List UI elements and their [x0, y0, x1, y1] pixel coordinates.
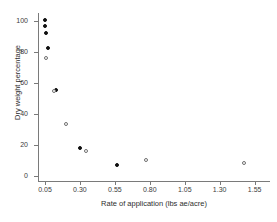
y-tick-mark	[34, 176, 38, 177]
data-point-open	[144, 158, 148, 162]
x-tick-label: 0.55	[98, 186, 132, 193]
x-tick-mark	[255, 181, 256, 185]
x-axis-title: Rate of application (lbs ae/acre)	[38, 199, 270, 208]
y-tick-mark	[34, 145, 38, 146]
data-point-open	[64, 122, 68, 126]
data-point-open	[84, 149, 88, 153]
x-tick-mark	[185, 181, 186, 185]
x-tick-mark	[115, 181, 116, 185]
x-tick-mark	[80, 181, 81, 185]
scatter-chart-figure: 020406080100 0.050.300.550.801.051.301.5…	[0, 0, 277, 222]
data-point-filled	[78, 146, 82, 150]
x-tick-mark	[45, 181, 46, 185]
x-tick-label: 1.55	[238, 186, 272, 193]
y-axis-title: Dry weight percentage	[13, 18, 22, 148]
x-tick-mark	[150, 181, 151, 185]
x-tick-label: 1.05	[168, 186, 202, 193]
data-point-open	[242, 161, 246, 165]
y-tick-label: 0	[2, 172, 28, 179]
plot-area	[38, 13, 270, 139]
data-point-filled	[115, 163, 119, 167]
x-axis-line	[38, 181, 270, 182]
data-point-filled	[43, 18, 47, 22]
x-tick-label: 0.80	[133, 186, 167, 193]
x-tick-label: 1.30	[203, 186, 237, 193]
x-tick-label: 0.30	[63, 186, 97, 193]
x-tick-label: 0.05	[28, 186, 62, 193]
x-tick-mark	[220, 181, 221, 185]
